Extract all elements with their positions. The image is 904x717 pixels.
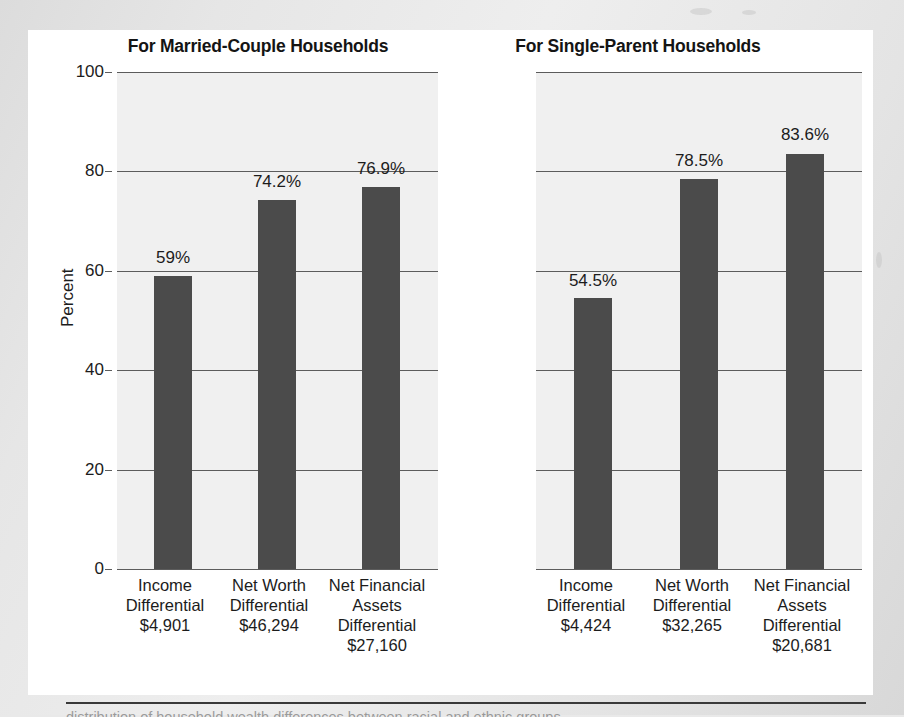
gridline-0 [117, 569, 438, 570]
bar-single-networth [680, 179, 718, 569]
y-axis-title: Percent [58, 268, 78, 327]
gridline-100 [117, 72, 438, 73]
scan-speck [876, 252, 882, 268]
category-label-married-netfin: Net Financial Assets Differential $27,16… [315, 575, 439, 655]
category-label-single-income: Income Differential $4,424 [530, 575, 642, 635]
bar-value-single-networth: 78.5% [654, 151, 744, 171]
scan-speck [742, 10, 756, 15]
gridline-100 [536, 72, 862, 73]
panel-title-married: For Married-Couple Households [88, 36, 428, 57]
y-tick-label-60: 60 [85, 261, 104, 281]
bar-married-netfin [362, 187, 400, 569]
y-axis: Percent 100 80 60 40 20 0 [56, 72, 112, 569]
y-tick-label-40: 40 [85, 360, 104, 380]
plot-panel-married: 59% 74.2% 76.9% [117, 72, 438, 569]
y-tick-label-0: 0 [95, 559, 104, 579]
bar-married-networth [258, 200, 296, 569]
y-tick-dash [105, 171, 112, 172]
bar-value-married-netfin: 76.9% [336, 159, 426, 179]
gridline-0 [536, 569, 862, 570]
bar-married-income [154, 276, 192, 569]
plot-panel-single: 54.5% 78.5% 83.6% [536, 72, 862, 569]
bar-single-income [574, 298, 612, 569]
y-tick-label-100: 100 [76, 62, 104, 82]
category-label-single-netfin: Net Financial Assets Differential $20,68… [740, 575, 864, 655]
y-tick-label-20: 20 [85, 460, 104, 480]
y-tick-label-80: 80 [85, 161, 104, 181]
footer-caption: distribution of household wealth differe… [66, 709, 866, 717]
category-label-married-income: Income Differential $4,901 [109, 575, 221, 635]
figure-card: For Married-Couple Households For Single… [28, 30, 873, 695]
panel-title-single: For Single-Parent Households [468, 36, 808, 57]
bar-single-netfin [786, 154, 824, 570]
bar-value-single-netfin: 83.6% [760, 125, 850, 145]
bar-value-married-networth: 74.2% [232, 172, 322, 192]
y-tick-dash [105, 470, 112, 471]
y-tick-dash [105, 569, 112, 570]
y-tick-dash [105, 370, 112, 371]
y-tick-dash [105, 271, 112, 272]
bar-value-single-income: 54.5% [548, 271, 638, 291]
scan-speck [690, 8, 712, 15]
category-label-single-networth: Net Worth Differential $32,265 [636, 575, 748, 635]
category-label-married-networth: Net Worth Differential $46,294 [213, 575, 325, 635]
footer-rule [66, 702, 866, 704]
bar-value-married-income: 59% [128, 248, 218, 268]
y-tick-dash [105, 72, 112, 73]
